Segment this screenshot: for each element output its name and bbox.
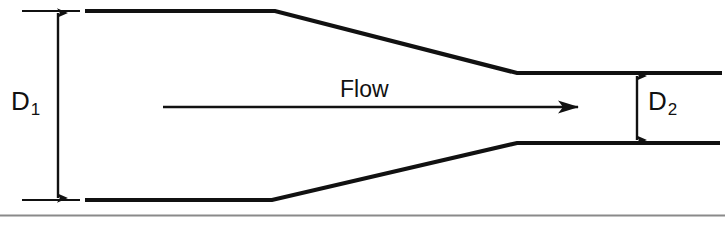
outlet-diameter-label-base: D bbox=[648, 86, 667, 116]
inlet-diameter-label-base: D bbox=[11, 86, 30, 116]
outlet-diameter-label: D2 bbox=[648, 88, 676, 114]
lower-pipe-wall bbox=[85, 143, 720, 200]
pipe-contraction-figure: D1 D2 Flow bbox=[0, 0, 725, 226]
inlet-diameter-label: D1 bbox=[11, 88, 39, 114]
upper-pipe-wall bbox=[85, 11, 722, 73]
inlet-diameter-label-subscript: 1 bbox=[31, 100, 40, 119]
outlet-diameter-label-subscript: 2 bbox=[668, 100, 677, 119]
diagram-canvas bbox=[0, 0, 725, 226]
flow-label: Flow bbox=[340, 78, 389, 101]
